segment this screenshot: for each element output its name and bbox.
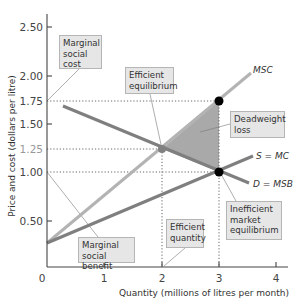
x-tick-3: 3 [216, 272, 223, 284]
msc-label: MSC [253, 65, 273, 75]
externality-chart: 2.50 2.00 1.75 1.50 1.25 1.00 0.50 0 1 2… [0, 0, 304, 305]
efficient-equilibrium-annotation: Efficient equilibrium [125, 67, 174, 94]
efficient-quantity-annotation: Efficient quantity [166, 219, 204, 248]
y-tick-1-00: 1.00 [20, 166, 43, 178]
deadweight-loss-annotation: Deadweight loss [230, 111, 285, 138]
efficient-equilibrium-point [158, 145, 166, 153]
y-tick-1-50: 1.50 [20, 118, 43, 130]
y-tick-2-00: 2.00 [20, 70, 43, 82]
x-tick-1: 1 [101, 272, 108, 284]
y-axis-title: Price and cost (dollars per litre) [7, 75, 17, 217]
x-axis-title: Quantity (millions of litres per month) [119, 288, 289, 298]
deadweight-loss-area [162, 101, 219, 172]
marginal-social-cost-annotation: Marginal social cost [59, 35, 102, 69]
smc-label: S = MC [256, 151, 290, 161]
y-tick-0-50: 0.50 [20, 215, 43, 227]
x-tick-2: 2 [159, 272, 166, 284]
y-tick-1-75: 1.75 [20, 95, 43, 107]
dmsb-label: D = MSB [253, 179, 293, 189]
market-equilibrium-point [215, 168, 224, 177]
inefficient-market-equilibrium-annotation: Inefficient market equilibrium [226, 201, 282, 240]
marginal-social-benefit-annotation: Marginal social benefit [78, 237, 135, 263]
x-tick-4: 4 [273, 272, 280, 284]
y-tick-2-50: 2.50 [20, 21, 43, 33]
x-tick-0: 0 [39, 272, 46, 284]
msc-at-market-point [215, 97, 224, 106]
y-tick-1-25: 1.25 [20, 143, 43, 155]
